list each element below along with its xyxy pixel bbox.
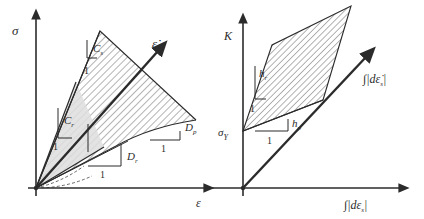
left-unit-upper: 1 — [84, 65, 89, 76]
left-x-axis-label: ε — [196, 196, 201, 210]
right-diagonal-label: ∫|dε̇s| — [362, 72, 386, 88]
left-unit-lower: 1 — [53, 141, 58, 152]
right-x-axis-label: ∫|dεs| — [343, 198, 367, 214]
right-unit-hr: 1 — [250, 103, 255, 114]
left-y-axis-label: σ — [12, 23, 19, 38]
figure-svg: σ ε ε̇ Cs Cr 1 1 1 1 Dr Dp K ∫|dεs| ∫|dε… — [0, 0, 424, 219]
canvas-background — [0, 0, 424, 219]
right-unit-hp: 1 — [267, 135, 272, 146]
figure-container: σ ε ε̇ Cs Cr 1 1 1 1 Dr Dp K ∫|dεs| ∫|dε… — [0, 0, 424, 219]
right-y-axis-label: K — [223, 29, 233, 43]
left-unit-dp: 1 — [161, 143, 166, 154]
left-unit-dr: 1 — [100, 169, 105, 180]
